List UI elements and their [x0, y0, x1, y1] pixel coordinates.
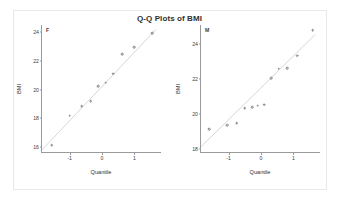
y-tick-label-female: 24 — [33, 29, 39, 35]
data-point — [243, 107, 246, 110]
y-tick-mark-female — [40, 118, 43, 119]
y-tick-label-female: 18 — [33, 115, 39, 121]
qq-plot-figure: Q-Q Plots of BMI BMI F 1618202224-101 Qu… — [0, 0, 339, 200]
x-tick-mark-male — [261, 152, 262, 155]
y-tick-label-male: 24 — [192, 41, 198, 47]
x-tick-mark-female — [102, 152, 103, 155]
y-tick-mark-female — [40, 32, 43, 33]
y-tick-mark-female — [40, 147, 43, 148]
data-point — [278, 68, 281, 71]
data-point — [226, 124, 229, 127]
data-point — [208, 128, 211, 131]
x-tick-label-female: 0 — [101, 155, 104, 161]
y-tick-label-female: 20 — [33, 87, 39, 93]
data-point — [112, 73, 115, 76]
panel-label-male: M — [205, 27, 209, 33]
x-tick-label-male: 0 — [260, 155, 263, 161]
plot-area-female: F 1618202224-101 — [41, 25, 161, 153]
data-point — [263, 103, 266, 106]
data-point — [312, 29, 315, 32]
y-tick-mark-female — [40, 89, 43, 90]
data-point — [151, 32, 154, 35]
y-tick-mark-male — [199, 44, 202, 45]
x-tick-label-female: 1 — [133, 155, 136, 161]
data-point — [133, 46, 136, 49]
panel-label-female: F — [46, 27, 49, 33]
reference-line-female — [42, 25, 161, 152]
reference-line-male — [201, 25, 320, 152]
y-tick-label-female: 16 — [33, 144, 39, 150]
y-tick-mark-male — [199, 149, 202, 150]
data-point — [105, 81, 108, 84]
y-tick-label-male: 20 — [192, 111, 198, 117]
page-title: Q-Q Plots of BMI — [0, 14, 339, 23]
data-point — [97, 85, 100, 88]
data-point — [256, 104, 259, 107]
x-axis-title-male: Quantile — [200, 169, 320, 175]
data-point — [89, 100, 92, 103]
data-point — [235, 122, 238, 125]
y-tick-mark-female — [40, 60, 43, 61]
data-point — [286, 67, 289, 70]
plot-area-male: M 18202224-101 — [200, 25, 320, 153]
x-tick-mark-male — [229, 152, 230, 155]
data-point — [68, 114, 71, 117]
panel-male: BMI M 18202224-101 Quantile — [180, 25, 322, 165]
x-tick-mark-female — [70, 152, 71, 155]
data-point — [296, 54, 299, 57]
x-tick-mark-male — [293, 152, 294, 155]
y-tick-label-female: 22 — [33, 58, 39, 64]
y-axis-title-male: BMI — [175, 84, 181, 94]
data-point — [50, 144, 53, 147]
y-axis-title-female: BMI — [16, 84, 22, 94]
x-tick-label-male: 1 — [292, 155, 295, 161]
y-tick-label-male: 18 — [192, 146, 198, 152]
y-tick-mark-male — [199, 114, 202, 115]
data-point — [270, 77, 273, 80]
y-tick-mark-male — [199, 79, 202, 80]
x-axis-title-female: Quantile — [41, 169, 161, 175]
x-tick-label-male: -1 — [226, 155, 231, 161]
data-point — [121, 53, 124, 56]
data-point — [81, 105, 84, 108]
x-tick-label-female: -1 — [67, 155, 72, 161]
y-tick-label-male: 22 — [192, 76, 198, 82]
panel-female: BMI F 1618202224-101 Quantile — [21, 25, 163, 165]
data-point — [251, 106, 254, 109]
x-tick-mark-female — [134, 152, 135, 155]
